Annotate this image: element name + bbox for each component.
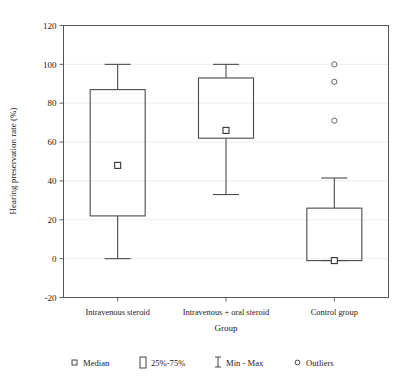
boxplot-group-2 [307, 62, 362, 264]
legend-item-0: Median [72, 358, 110, 368]
legend-outliers-circle-icon [295, 360, 300, 365]
median-marker-0 [115, 162, 121, 168]
legend-item-3: Outliers [295, 358, 334, 368]
outlier-marker-2-1 [332, 79, 337, 84]
box-series [90, 62, 362, 264]
box-iqr-2 [307, 208, 362, 260]
legend-label-0: Median [83, 358, 110, 368]
legend-iqr-box-icon [140, 357, 146, 368]
median-marker-1 [223, 127, 229, 133]
legend-median-square-icon [72, 360, 77, 365]
y-tick-label-100: 100 [43, 60, 57, 70]
boxplot-group-1 [199, 64, 254, 194]
x-category-label-0: Intravenous steroid [85, 308, 150, 317]
x-category-label-1: Intravenous + oral steroid [183, 308, 270, 317]
y-tick-label-120: 120 [43, 21, 57, 31]
box-plot-chart: -20020406080100120 Intravenous steroidIn… [0, 0, 410, 385]
y-tick-label-0: 0 [52, 254, 57, 264]
legend-label-3: Outliers [306, 358, 334, 368]
x-category-label-2: Control group [311, 308, 358, 317]
chart-legend: Median25%-75%Min - MaxOutliers [72, 357, 334, 368]
y-axis: -20020406080100120 [43, 21, 64, 303]
y-tick-label-40: 40 [48, 176, 58, 186]
x-axis-title: Group [215, 323, 238, 333]
chart-canvas: -20020406080100120 Intravenous steroidIn… [0, 0, 410, 385]
y-tick-label-60: 60 [48, 137, 58, 147]
box-iqr-0 [90, 90, 145, 216]
legend-item-2: Min - Max [215, 357, 264, 368]
median-marker-2 [331, 258, 337, 264]
boxplot-group-0 [90, 64, 145, 258]
legend-label-1: 25%-75% [151, 358, 185, 368]
x-axis: Intravenous steroidIntravenous + oral st… [85, 298, 358, 317]
y-tick-label-80: 80 [48, 98, 58, 108]
y-axis-title: Hearing preservation rate (%) [8, 107, 18, 214]
y-tick-label-20: 20 [48, 215, 58, 225]
legend-label-2: Min - Max [226, 358, 264, 368]
y-tick-label--20: -20 [45, 293, 57, 303]
outlier-marker-2-2 [332, 118, 337, 123]
legend-item-1: 25%-75% [140, 357, 185, 368]
